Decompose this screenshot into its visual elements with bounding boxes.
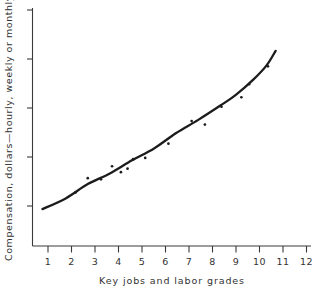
x-tick-labels: 1 2 3 4 5 6 7 8 9 10 11 12: [45, 256, 313, 267]
x-tick-label: 1: [45, 256, 51, 267]
data-point: [248, 83, 251, 86]
data-point: [267, 65, 270, 68]
data-points-group: [74, 65, 269, 194]
data-point: [74, 191, 77, 194]
data-point: [100, 178, 103, 181]
trend-curve: [42, 51, 275, 209]
data-point: [190, 120, 193, 123]
x-axis-ticks: [48, 246, 307, 253]
x-tick-label: 12: [300, 256, 313, 267]
x-tick-label: 6: [162, 256, 168, 267]
data-point: [167, 142, 170, 145]
scatter-plot-canvas: 1 2 3 4 5 6 7 8 9 10 11 12 Key jobs and …: [0, 0, 315, 291]
x-tick-label: 4: [115, 256, 121, 267]
data-point: [204, 123, 207, 126]
x-tick-label: 9: [233, 256, 239, 267]
x-tick-label: 11: [277, 256, 290, 267]
y-axis-title: Compensation, dollars—hourly, weekly or …: [3, 0, 14, 261]
data-point: [86, 177, 89, 180]
x-tick-label: 7: [186, 256, 192, 267]
data-point: [126, 167, 129, 170]
data-point: [144, 157, 147, 160]
data-point: [120, 171, 123, 174]
chart-figure: 1 2 3 4 5 6 7 8 9 10 11 12 Key jobs and …: [0, 0, 315, 291]
x-axis-title: Key jobs and labor grades: [99, 275, 245, 286]
data-point: [220, 105, 223, 108]
x-tick-label: 8: [209, 256, 215, 267]
data-point: [240, 96, 243, 99]
data-point: [111, 165, 114, 168]
data-point: [132, 158, 135, 161]
y-axis-ticks: [27, 10, 33, 206]
x-tick-label: 5: [139, 256, 145, 267]
x-tick-label: 10: [253, 256, 266, 267]
x-tick-label: 3: [92, 256, 98, 267]
x-tick-label: 2: [68, 256, 74, 267]
